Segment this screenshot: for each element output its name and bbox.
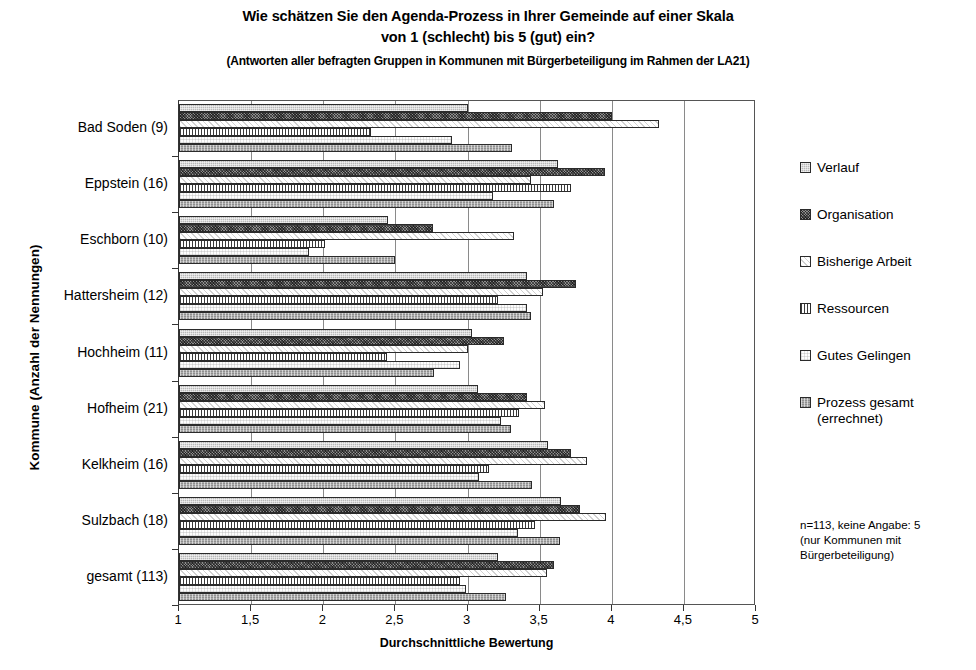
bar	[179, 240, 325, 248]
bar	[179, 329, 472, 337]
legend-item[interactable]: Ressourcen	[800, 301, 976, 317]
bar	[179, 232, 514, 240]
bar	[179, 457, 587, 465]
bar-group	[179, 553, 754, 603]
bar	[179, 192, 493, 200]
legend-note-line: (nur Kommunen mit	[800, 533, 970, 548]
y-axis-tick	[172, 549, 178, 550]
y-axis-category-label: gesamt (113)	[10, 568, 178, 584]
legend-item-label: Bisherige Arbeit	[817, 254, 976, 270]
bar-group	[179, 216, 754, 266]
bar-group	[179, 385, 754, 435]
bar	[179, 288, 543, 296]
x-axis-tick	[467, 605, 468, 611]
legend-swatch-icon	[800, 303, 811, 314]
bar	[179, 497, 561, 505]
legend-swatch-icon	[800, 209, 811, 220]
bar	[179, 553, 498, 561]
y-axis-tick	[172, 381, 178, 382]
bar	[179, 160, 558, 168]
bar	[179, 577, 460, 585]
bar	[179, 345, 468, 353]
bar	[179, 369, 434, 377]
y-axis-category-label: Bad Soden (9)	[10, 119, 178, 135]
bar	[179, 449, 571, 457]
bar	[179, 585, 466, 593]
legend-note-line: Bürgerbeteiligung)	[800, 548, 970, 563]
bar	[179, 136, 452, 144]
bar	[179, 248, 309, 256]
x-axis-tick	[611, 605, 612, 611]
bar	[179, 216, 388, 224]
bar	[179, 425, 511, 433]
chart-title-line-1: Wie schätzen Sie den Agenda-Prozess in I…	[0, 6, 976, 27]
chart-subtitle: (Antworten aller befragten Gruppen in Ko…	[0, 51, 976, 71]
y-axis-category-label: Eppstein (16)	[10, 175, 178, 191]
bar	[179, 521, 535, 529]
bar	[179, 272, 527, 280]
x-axis-tick	[683, 605, 684, 611]
bar	[179, 393, 527, 401]
legend-item[interactable]: Gutes Gelingen	[800, 348, 976, 364]
bar	[179, 481, 532, 489]
x-axis-title: Durchschnittliche Bewertung	[178, 636, 755, 650]
legend-swatch-icon	[800, 162, 811, 173]
y-axis-tick	[172, 493, 178, 494]
y-axis-tick	[172, 324, 178, 325]
x-axis-tick	[250, 605, 251, 611]
y-axis-tick	[172, 268, 178, 269]
y-axis-category-labels: Bad Soden (9)Eppstein (16)Eschborn (10)H…	[0, 100, 178, 605]
bar	[179, 561, 554, 569]
bar	[179, 312, 531, 320]
x-axis-tick	[178, 605, 179, 611]
bar	[179, 200, 554, 208]
bar	[179, 385, 478, 393]
legend-item[interactable]: Organisation	[800, 207, 976, 223]
x-axis-tick-label: 1,5	[230, 612, 270, 627]
legend-note: n=113, keine Angabe: 5(nur Kommunen mitB…	[800, 518, 970, 563]
plot-area	[178, 100, 755, 605]
bar	[179, 296, 498, 304]
y-axis-category-label: Eschborn (10)	[10, 231, 178, 247]
y-axis-category-label: Hochheim (11)	[10, 344, 178, 360]
bar	[179, 337, 504, 345]
x-axis-tick-label: 2,5	[374, 612, 414, 627]
legend-item[interactable]: Bisherige Arbeit	[800, 254, 976, 270]
bar	[179, 104, 468, 112]
chart-legend: VerlaufOrganisationBisherige ArbeitResso…	[800, 160, 976, 458]
bar	[179, 537, 560, 545]
bar	[179, 593, 506, 601]
x-axis-tick	[394, 605, 395, 611]
bar	[179, 176, 531, 184]
x-axis-tick	[539, 605, 540, 611]
legend-item-label: Verlauf	[817, 160, 976, 176]
bar	[179, 417, 501, 425]
bar	[179, 353, 387, 361]
legend-swatch-icon	[800, 397, 811, 408]
bar	[179, 441, 548, 449]
x-axis-tick-label: 2	[302, 612, 342, 627]
legend-swatch-icon	[800, 350, 811, 361]
legend-item[interactable]: Verlauf	[800, 160, 976, 176]
bar	[179, 569, 547, 577]
y-axis-category-label: Kelkheim (16)	[10, 456, 178, 472]
legend-item[interactable]: Prozess gesamt (errechnet)	[800, 395, 976, 427]
bar	[179, 409, 519, 417]
y-axis-category-label: Hattersheim (12)	[10, 287, 178, 303]
bar	[179, 256, 395, 264]
legend-item-label: Gutes Gelingen	[817, 348, 976, 364]
bar-group	[179, 329, 754, 379]
x-axis-tick-label: 5	[735, 612, 775, 627]
bar	[179, 184, 571, 192]
bar	[179, 304, 527, 312]
chart-title-line-2: von 1 (schlecht) bis 5 (gut) ein?	[0, 27, 976, 48]
legend-item-label: Prozess gesamt (errechnet)	[817, 395, 976, 427]
bar	[179, 112, 612, 120]
bar	[179, 280, 576, 288]
x-axis-tick-label: 4,5	[663, 612, 703, 627]
x-axis-tick-label: 3	[447, 612, 487, 627]
legend-item-label: Ressourcen	[817, 301, 976, 317]
y-axis-tick	[172, 437, 178, 438]
bar-group	[179, 272, 754, 322]
bar	[179, 465, 489, 473]
